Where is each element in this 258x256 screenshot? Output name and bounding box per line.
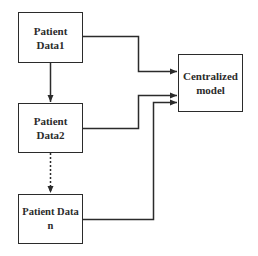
diagram-canvas: Patient Data1 Patient Data2 Patient Data… xyxy=(0,0,258,256)
node-label: Patient Data1 xyxy=(34,24,68,52)
node-patient-data-2: Patient Data2 xyxy=(18,103,83,153)
node-label: Patient Data2 xyxy=(34,114,68,142)
node-patient-data-n: Patient Data n xyxy=(18,194,83,244)
node-patient-data-1: Patient Data1 xyxy=(18,12,83,63)
edge-data2-to-centralized xyxy=(83,96,177,129)
edge-data1-to-centralized xyxy=(83,37,177,72)
node-label: Patient Data n xyxy=(22,205,78,233)
edge-datan-to-centralized xyxy=(83,103,177,220)
node-label: Centralized model xyxy=(183,69,238,97)
node-centralized-model: Centralized model xyxy=(178,54,243,112)
